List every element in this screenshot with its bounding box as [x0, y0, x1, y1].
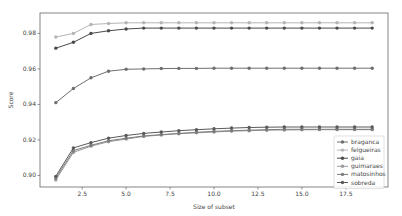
data-point-marker [107, 22, 110, 25]
data-point-marker [247, 21, 250, 24]
data-point-marker [54, 101, 57, 104]
data-point-marker [124, 27, 127, 30]
data-point-marker [195, 128, 198, 131]
x-tick-label: 2.5 [77, 190, 87, 197]
legend-marker-icon [341, 181, 344, 184]
series-line [56, 129, 372, 178]
data-point-marker [177, 129, 180, 132]
x-axis-label: Size of subset [193, 203, 235, 210]
data-point-marker [265, 125, 268, 128]
data-point-marker [265, 26, 268, 29]
data-point-marker [212, 21, 215, 24]
data-point-marker [370, 125, 373, 128]
y-tick-label: 0.98 [23, 29, 37, 36]
data-point-marker [212, 127, 215, 130]
y-axis-label: Score [7, 91, 14, 108]
series-line [56, 68, 372, 103]
data-point-marker [212, 26, 215, 29]
data-point-marker [72, 32, 75, 35]
legend-label: matosinhos [351, 170, 386, 177]
data-point-marker [335, 21, 338, 24]
data-point-marker [370, 26, 373, 29]
data-point-marker [247, 26, 250, 29]
data-point-marker [247, 67, 250, 70]
data-point-marker [353, 26, 356, 29]
series-line [56, 23, 372, 37]
data-point-marker [177, 21, 180, 24]
data-point-marker [230, 126, 233, 129]
data-point-marker [318, 21, 321, 24]
data-point-marker [300, 21, 303, 24]
line-chart: 2.55.07.510.012.515.017.5 0.900.920.940.… [0, 0, 402, 216]
y-tick-label: 0.90 [23, 171, 37, 178]
series-matosinhos [54, 128, 374, 180]
x-tick-label: 12.5 [251, 190, 265, 197]
legend-marker-icon [341, 165, 344, 168]
data-point-marker [142, 132, 145, 135]
series-line [56, 127, 372, 176]
data-point-marker [370, 67, 373, 70]
data-point-marker [300, 26, 303, 29]
data-point-marker [318, 125, 321, 128]
data-point-marker [318, 26, 321, 29]
data-point-marker [283, 26, 286, 29]
data-point-marker [107, 136, 110, 139]
data-point-marker [195, 67, 198, 70]
series-felgueiras [54, 21, 374, 39]
y-tick-label: 0.94 [23, 100, 37, 107]
data-point-marker [160, 26, 163, 29]
data-point-marker [318, 67, 321, 70]
data-point-marker [230, 67, 233, 70]
data-point-marker [335, 125, 338, 128]
data-point-marker [107, 29, 110, 32]
data-point-marker [89, 141, 92, 144]
x-axis: 2.55.07.510.012.515.017.5 [77, 187, 352, 197]
x-tick-label: 10.0 [207, 190, 221, 197]
data-point-marker [283, 21, 286, 24]
series-lines [54, 21, 374, 182]
data-point-marker [160, 21, 163, 24]
data-point-marker [195, 21, 198, 24]
data-point-marker [353, 21, 356, 24]
x-tick-label: 7.5 [165, 190, 175, 197]
x-tick-label: 15.0 [295, 190, 309, 197]
data-point-marker [212, 67, 215, 70]
data-point-marker [230, 26, 233, 29]
data-point-marker [142, 67, 145, 70]
data-point-marker [177, 26, 180, 29]
data-point-marker [230, 21, 233, 24]
x-tick-label: 17.5 [339, 190, 353, 197]
data-point-marker [89, 76, 92, 79]
x-tick-label: 5.0 [121, 190, 131, 197]
series-braganca [54, 67, 374, 105]
data-point-marker [54, 175, 57, 178]
data-point-marker [124, 68, 127, 71]
data-point-marker [335, 67, 338, 70]
legend-marker-icon [341, 157, 344, 160]
data-point-marker [265, 67, 268, 70]
data-point-marker [283, 125, 286, 128]
data-point-marker [54, 46, 57, 49]
data-point-marker [300, 67, 303, 70]
y-tick-label: 0.96 [23, 65, 37, 72]
data-point-marker [89, 23, 92, 26]
legend-label: gaia [351, 154, 364, 162]
legend-label: braganca [351, 138, 380, 146]
data-point-marker [283, 67, 286, 70]
data-point-marker [142, 26, 145, 29]
legend-marker-icon [341, 173, 344, 176]
data-point-marker [54, 35, 57, 38]
legend: bragancafelgueirasgaiaguimaraesmatosinho… [334, 136, 386, 189]
legend-marker-icon [341, 148, 344, 151]
data-point-marker [72, 87, 75, 90]
data-point-marker [195, 26, 198, 29]
series-line [56, 130, 372, 180]
data-point-marker [353, 125, 356, 128]
legend-marker-icon [341, 140, 344, 143]
data-point-marker [142, 21, 145, 24]
series-guimaraes [54, 128, 374, 182]
legend-label: sobreda [351, 179, 375, 186]
data-point-marker [160, 67, 163, 70]
data-point-marker [89, 32, 92, 35]
legend-label: felgueiras [351, 146, 381, 154]
